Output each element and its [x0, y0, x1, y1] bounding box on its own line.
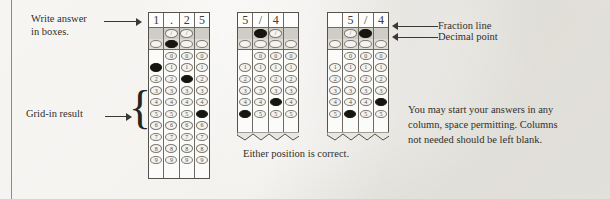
- digit-bubble-2[interactable]: 2: [344, 75, 356, 83]
- digit-bubble-3[interactable]: 3: [360, 86, 372, 94]
- written-answer-cell[interactable]: 1: [149, 13, 163, 28]
- digit-bubble-4[interactable]: [270, 98, 282, 106]
- decimal-bubble[interactable]: [239, 40, 252, 48]
- digit-bubble-0[interactable]: 0: [285, 52, 297, 60]
- digit-bubble-3[interactable]: 3: [181, 86, 193, 94]
- written-answer-cell[interactable]: 5: [195, 13, 209, 28]
- answer-grid-fraction-left[interactable]: 51234//0123454/01235012345: [237, 12, 299, 134]
- digit-bubble-7[interactable]: 7: [196, 133, 208, 141]
- digit-bubble-3[interactable]: 3: [329, 86, 341, 94]
- digit-bubble-4[interactable]: 4: [239, 98, 251, 106]
- digit-bubble-0[interactable]: 0: [375, 52, 387, 60]
- digit-bubble-3[interactable]: 3: [150, 86, 162, 94]
- digit-bubble-1[interactable]: 1: [360, 63, 372, 71]
- fraction-bubble[interactable]: /: [165, 29, 178, 37]
- digit-bubble-4[interactable]: 4: [165, 98, 177, 106]
- digit-bubble-4[interactable]: 4: [344, 98, 356, 106]
- digit-bubble-9[interactable]: 9: [196, 156, 208, 164]
- grid-column[interactable]: 5/01234: [343, 13, 358, 133]
- digit-bubble-4[interactable]: 4: [285, 98, 297, 106]
- grid-column[interactable]: 4/01235: [269, 13, 284, 133]
- decimal-bubble[interactable]: [150, 40, 163, 48]
- digit-bubble-6[interactable]: 6: [196, 121, 208, 129]
- written-answer-cell[interactable]: 4: [374, 13, 388, 28]
- digit-bubble-5[interactable]: 5: [270, 110, 282, 118]
- digit-bubble-9[interactable]: 9: [165, 156, 177, 164]
- digit-bubble-7[interactable]: 7: [150, 133, 162, 141]
- digit-bubble-1[interactable]: 1: [181, 63, 193, 71]
- fraction-bubble[interactable]: /: [359, 29, 372, 37]
- grid-column[interactable]: 12345: [328, 13, 343, 133]
- grid-column[interactable]: 2/013456789: [180, 13, 195, 178]
- digit-bubble-1[interactable]: 1: [375, 63, 387, 71]
- digit-bubble-7[interactable]: 7: [165, 133, 177, 141]
- digit-bubble-8[interactable]: 8: [150, 144, 162, 152]
- digit-bubble-2[interactable]: [181, 75, 193, 83]
- digit-bubble-4[interactable]: 4: [150, 98, 162, 106]
- digit-bubble-2[interactable]: 2: [329, 75, 341, 83]
- grid-column[interactable]: ./0123456789: [164, 13, 179, 178]
- answer-grid-decimal[interactable]: 123456789./01234567892/01345678950123467…: [148, 12, 210, 179]
- digit-bubble-1[interactable]: 1: [196, 63, 208, 71]
- digit-bubble-2[interactable]: 2: [150, 75, 162, 83]
- decimal-bubble[interactable]: [329, 40, 342, 48]
- digit-bubble-5[interactable]: 5: [360, 110, 372, 118]
- digit-bubble-9[interactable]: 9: [150, 156, 162, 164]
- digit-bubble-0[interactable]: 0: [344, 52, 356, 60]
- digit-bubble-2[interactable]: 2: [165, 75, 177, 83]
- digit-bubble-1[interactable]: 1: [254, 63, 266, 71]
- digit-bubble-6[interactable]: 6: [181, 121, 193, 129]
- digit-bubble-2[interactable]: 2: [270, 75, 282, 83]
- grid-column[interactable]: 51234: [238, 13, 253, 133]
- fraction-bubble[interactable]: /: [254, 29, 267, 37]
- grid-column[interactable]: //012345: [359, 13, 374, 133]
- digit-bubble-2[interactable]: 2: [254, 75, 266, 83]
- digit-bubble-3[interactable]: 3: [285, 86, 297, 94]
- digit-bubble-3[interactable]: 3: [165, 86, 177, 94]
- digit-bubble-8[interactable]: 8: [181, 144, 193, 152]
- digit-bubble-5[interactable]: [239, 110, 251, 118]
- decimal-bubble[interactable]: [254, 40, 267, 48]
- written-answer-cell[interactable]: /: [253, 13, 267, 28]
- digit-bubble-0[interactable]: 0: [254, 52, 266, 60]
- digit-bubble-5[interactable]: 5: [181, 110, 193, 118]
- digit-bubble-2[interactable]: 2: [360, 75, 372, 83]
- written-answer-cell[interactable]: 5: [343, 13, 357, 28]
- decimal-bubble[interactable]: [344, 40, 357, 48]
- digit-bubble-1[interactable]: 1: [239, 63, 251, 71]
- digit-bubble-1[interactable]: 1: [344, 63, 356, 71]
- digit-bubble-4[interactable]: 4: [254, 98, 266, 106]
- digit-bubble-2[interactable]: 2: [285, 75, 297, 83]
- decimal-bubble[interactable]: [375, 40, 388, 48]
- digit-bubble-0[interactable]: 0: [360, 52, 372, 60]
- decimal-bubble[interactable]: [165, 40, 178, 48]
- digit-bubble-3[interactable]: 3: [270, 86, 282, 94]
- digit-bubble-5[interactable]: [196, 110, 208, 118]
- digit-bubble-3[interactable]: 3: [344, 86, 356, 94]
- digit-bubble-2[interactable]: 2: [239, 75, 251, 83]
- digit-bubble-6[interactable]: 6: [165, 121, 177, 129]
- digit-bubble-8[interactable]: 8: [165, 144, 177, 152]
- written-answer-cell[interactable]: 5: [238, 13, 252, 28]
- digit-bubble-3[interactable]: 3: [196, 86, 208, 94]
- digit-bubble-4[interactable]: [375, 98, 387, 106]
- answer-grid-fraction-right[interactable]: 123455/01234//012345401235: [327, 12, 389, 134]
- digit-bubble-5[interactable]: 5: [285, 110, 297, 118]
- digit-bubble-5[interactable]: 5: [150, 110, 162, 118]
- digit-bubble-1[interactable]: [150, 63, 162, 71]
- digit-bubble-5[interactable]: 5: [165, 110, 177, 118]
- written-answer-cell[interactable]: 4: [269, 13, 283, 28]
- digit-bubble-3[interactable]: 3: [375, 86, 387, 94]
- digit-bubble-5[interactable]: 5: [329, 110, 341, 118]
- fraction-bubble[interactable]: /: [180, 29, 193, 37]
- digit-bubble-9[interactable]: 9: [181, 156, 193, 164]
- fraction-bubble[interactable]: /: [269, 29, 282, 37]
- decimal-bubble[interactable]: [359, 40, 372, 48]
- grid-column[interactable]: 401235: [374, 13, 388, 133]
- digit-bubble-5[interactable]: 5: [375, 110, 387, 118]
- digit-bubble-0[interactable]: 0: [165, 52, 177, 60]
- digit-bubble-5[interactable]: [344, 110, 356, 118]
- digit-bubble-6[interactable]: 6: [150, 121, 162, 129]
- decimal-bubble[interactable]: [180, 40, 193, 48]
- digit-bubble-1[interactable]: 1: [329, 63, 341, 71]
